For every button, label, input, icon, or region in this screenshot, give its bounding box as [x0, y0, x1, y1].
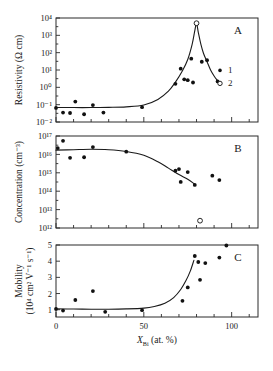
data-point-filled: [186, 78, 190, 82]
panel-a: 10⁻²10⁻¹10⁰10¹10²10³10⁴A12Resistivity (Ω…: [14, 13, 258, 127]
panel-c: 12345050100CMobility(10⁴ cm² V⁻¹ s⁻¹): [14, 240, 258, 331]
y-tick-label: 3: [48, 272, 52, 282]
fit-curve: [56, 260, 194, 309]
data-point-filled: [68, 111, 72, 115]
fit-curve: [56, 149, 195, 184]
data-point-open: [194, 21, 199, 26]
y-tick-label: 10¹³: [38, 205, 52, 215]
data-point-filled: [174, 169, 178, 173]
x-tick-label: 0: [54, 321, 58, 331]
data-point-filled: [91, 289, 95, 293]
data-point-filled: [174, 82, 178, 86]
legend-label: 2: [228, 78, 233, 88]
data-point-filled: [124, 150, 128, 154]
y-axis-title: Concentration (cm⁻³): [14, 141, 25, 223]
y-tick-label: 10⁻²: [36, 117, 53, 127]
data-point-filled: [203, 261, 207, 265]
multi-panel-chart: 10⁻²10⁻¹10⁰10¹10²10³10⁴A12Resistivity (Ω…: [0, 0, 273, 371]
y-axis-title-units: (10⁴ cm² V⁻¹ s⁻¹): [25, 248, 36, 315]
y-tick-label: 10¹⁷: [38, 131, 52, 141]
x-axis-title-units: (at. %): [149, 335, 177, 346]
y-tick-label: 5: [48, 240, 52, 250]
data-point-filled: [61, 139, 65, 143]
data-point-filled: [73, 100, 77, 104]
data-point-filled: [177, 167, 181, 171]
data-point-filled: [82, 112, 86, 116]
x-tick-label: 50: [140, 321, 149, 331]
y-tick-label: 4: [48, 256, 53, 266]
data-point-filled: [61, 111, 65, 115]
panel-letter: C: [234, 251, 241, 263]
legend-label: 1: [228, 65, 233, 75]
y-tick-label: 10⁰: [40, 82, 53, 92]
data-point-filled: [56, 146, 60, 150]
data-point-filled: [103, 310, 107, 314]
y-axis-title: Resistivity (Ω cm): [14, 35, 25, 105]
x-axis-title: XBi (at. %): [136, 335, 177, 347]
y-tick-label: 2: [48, 289, 52, 299]
data-point-filled: [102, 111, 106, 115]
y-tick-label: 10⁻¹: [36, 100, 53, 110]
data-point-filled: [179, 180, 183, 184]
fit-curve: [56, 23, 218, 107]
panel-b: 10¹²10¹³10¹⁴10¹⁵10¹⁶10¹⁷BConcentration (…: [14, 131, 258, 233]
data-point-filled: [217, 178, 221, 182]
y-tick-label: 10¹: [41, 65, 53, 75]
data-point-filled: [140, 308, 144, 312]
data-point-filled: [193, 254, 197, 258]
data-point-filled: [200, 60, 204, 64]
data-point-filled: [181, 299, 185, 303]
data-point-filled: [82, 155, 86, 159]
y-tick-label: 10³: [41, 30, 53, 40]
y-tick-label: 10¹⁵: [38, 168, 52, 178]
panel-letter: B: [234, 142, 241, 154]
panel-letter: A: [234, 24, 242, 36]
y-tick-label: 10¹⁶: [38, 150, 52, 160]
figure-container: 10⁻²10⁻¹10⁰10¹10²10³10⁴A12Resistivity (Ω…: [0, 0, 273, 371]
x-tick-label: 100: [225, 321, 238, 331]
data-point-filled: [54, 307, 58, 311]
legend-marker-filled: [218, 69, 222, 73]
data-point-filled: [61, 309, 65, 313]
y-axis-title: Mobility: [14, 264, 24, 298]
data-point-filled: [217, 256, 221, 260]
data-point-filled: [198, 278, 202, 282]
data-point-filled: [224, 244, 228, 248]
data-point-filled: [54, 106, 58, 110]
y-tick-label: 10⁴: [41, 13, 53, 23]
y-tick-label: 10¹⁴: [38, 186, 52, 196]
data-point-filled: [186, 170, 190, 174]
data-point-filled: [91, 103, 95, 107]
data-point-filled: [182, 77, 186, 81]
y-tick-label: 10¹²: [38, 223, 52, 233]
data-point-filled: [186, 285, 190, 289]
data-point-filled: [193, 183, 197, 187]
data-point-filled: [179, 67, 183, 71]
data-point-open: [198, 218, 203, 223]
data-point-filled: [210, 174, 214, 178]
data-point-filled: [189, 57, 193, 61]
data-point-filled: [196, 260, 200, 264]
data-point-filled: [191, 81, 195, 85]
data-point-filled: [205, 58, 209, 62]
data-point-filled: [68, 156, 72, 160]
y-tick-label: 10²: [41, 48, 53, 58]
legend-marker-open: [218, 81, 222, 85]
data-point-filled: [73, 298, 77, 302]
data-point-filled: [140, 105, 144, 109]
data-point-filled: [91, 145, 95, 149]
y-tick-label: 1: [48, 305, 52, 315]
